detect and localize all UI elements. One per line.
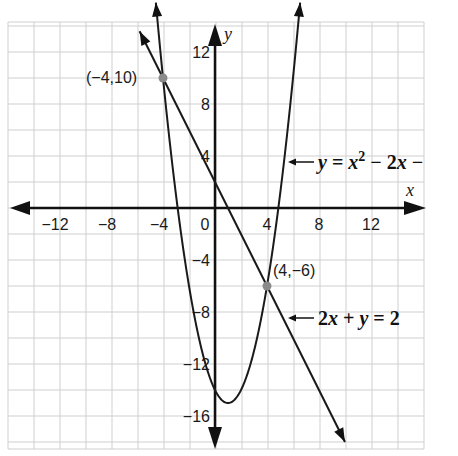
- left-pointer-arrow-icon: [288, 315, 296, 322]
- parabola-equation-label: y = x2 − 2x −: [316, 149, 423, 174]
- line-bottom-arrow-icon: [334, 427, 345, 442]
- x-axis-right-arrow-icon: [404, 201, 426, 215]
- y-tick-label: 8: [201, 96, 210, 113]
- parabola-equation-annotation: y = x2 − 2x −: [288, 149, 423, 174]
- x-tick-label: −4: [150, 216, 168, 233]
- coordinate-graph: y x −12−8−404812 1284−4−8−12−16 (−4,10) …: [0, 0, 458, 456]
- x-tick-label: 12: [362, 216, 380, 233]
- y-axis-label: y: [222, 24, 232, 44]
- y-tick-label: −4: [192, 252, 210, 269]
- y-axis: [208, 24, 222, 449]
- y-axis-down-arrow-icon: [208, 427, 222, 449]
- x-tick-labels: −12−8−404812: [41, 216, 380, 233]
- y-axis-up-arrow-icon: [208, 24, 222, 46]
- x-axis: [10, 201, 426, 215]
- x-tick-label: 8: [315, 216, 324, 233]
- line-top-arrow-icon: [140, 31, 151, 46]
- point-label-2: (4,−6): [273, 262, 315, 279]
- y-tick-label: 12: [192, 44, 210, 61]
- line-equation-annotation: 2x + y = 2: [288, 307, 400, 330]
- parabola-left-arrow-icon: [152, 3, 162, 17]
- intersection-point-1: [159, 74, 168, 83]
- x-axis-left-arrow-icon: [10, 201, 30, 215]
- x-tick-label: −12: [41, 216, 68, 233]
- x-tick-label: 4: [263, 216, 272, 233]
- line-equation-label: 2x + y = 2: [318, 307, 400, 330]
- left-pointer-arrow-icon: [288, 159, 296, 166]
- intersection-point-2: [263, 282, 272, 291]
- parabola-right-arrow-icon: [294, 3, 304, 17]
- x-tick-label: 0: [201, 216, 210, 233]
- parabola-curve: [156, 3, 300, 403]
- point-label-1: (−4,10): [86, 69, 137, 86]
- x-axis-label: x: [405, 180, 414, 200]
- y-tick-label: −16: [183, 408, 210, 425]
- x-tick-label: −8: [98, 216, 116, 233]
